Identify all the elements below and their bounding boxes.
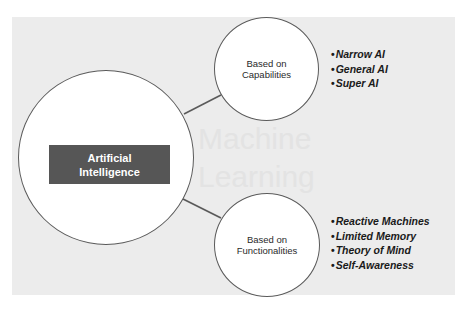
list-item: •Narrow AI xyxy=(331,47,388,62)
functionalities-list: •Reactive Machines •Limited Memory •Theo… xyxy=(331,214,430,272)
list-item: •Limited Memory xyxy=(331,229,430,244)
capabilities-label: Based on Capabilities xyxy=(215,58,318,80)
root-label-line1: Artificial xyxy=(49,151,170,165)
bullet-icon: • xyxy=(331,63,335,75)
item-text: Limited Memory xyxy=(336,230,417,242)
list-item: •Reactive Machines xyxy=(331,214,430,229)
item-text: Self-Awareness xyxy=(336,259,414,271)
capabilities-list: •Narrow AI •General AI •Super AI xyxy=(331,47,388,91)
item-text: Reactive Machines xyxy=(336,215,430,227)
item-text: General AI xyxy=(336,63,388,75)
capabilities-label-line1: Based on xyxy=(215,58,318,69)
bullet-icon: • xyxy=(331,230,335,242)
functionalities-label: Based on Functionalities xyxy=(215,234,319,256)
connector-capabilities xyxy=(184,95,221,114)
bullet-icon: • xyxy=(331,48,335,60)
list-item: •Theory of Mind xyxy=(331,243,430,258)
capabilities-label-line2: Capabilities xyxy=(215,69,318,80)
bullet-icon: • xyxy=(331,259,335,271)
functionalities-label-line2: Functionalities xyxy=(215,245,319,256)
bullet-icon: • xyxy=(331,244,335,256)
list-item: •Super AI xyxy=(331,76,388,91)
capabilities-circle: Based on Capabilities xyxy=(214,17,319,121)
root-label-line2: Intelligence xyxy=(49,165,170,179)
functionalities-label-line1: Based on xyxy=(215,234,319,245)
bullet-icon: • xyxy=(331,77,335,89)
item-text: Theory of Mind xyxy=(336,244,411,256)
item-text: Narrow AI xyxy=(336,48,385,60)
bullet-icon: • xyxy=(331,215,335,227)
item-text: Super AI xyxy=(336,77,379,89)
connector-functionalities xyxy=(183,199,221,218)
list-item: •General AI xyxy=(331,62,388,77)
root-label-box: Artificial Intelligence xyxy=(49,145,170,184)
list-item: •Self-Awareness xyxy=(331,258,430,273)
functionalities-circle: Based on Functionalities xyxy=(214,193,320,297)
